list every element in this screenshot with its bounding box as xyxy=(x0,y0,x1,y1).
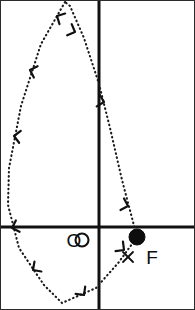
orbital-trajectory-figure: O F xyxy=(0,0,195,310)
arrow-head-8 xyxy=(121,199,130,212)
focus-label: F xyxy=(146,247,158,268)
x-marker xyxy=(123,252,133,262)
figure-canvas: O F xyxy=(0,0,195,310)
focus-marker xyxy=(129,229,145,245)
arrow-head-10 xyxy=(67,24,77,37)
arrow-head-3 xyxy=(13,130,21,143)
orbit-direction-arrows xyxy=(10,11,130,299)
orbit-path xyxy=(8,2,137,303)
arrow-head-5 xyxy=(30,262,42,275)
origin-label: O xyxy=(67,230,82,251)
